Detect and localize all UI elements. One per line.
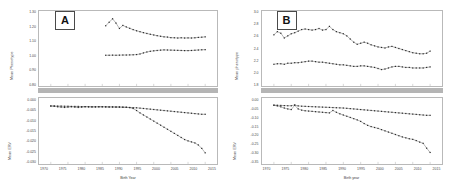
ytick-label: 0.80 <box>29 83 36 87</box>
data-point <box>422 114 423 115</box>
data-point <box>205 152 206 153</box>
xtick-label: 1985 <box>96 167 104 171</box>
data-point <box>412 52 413 53</box>
data-point <box>115 22 116 23</box>
data-point <box>360 43 361 44</box>
data-point <box>301 106 302 107</box>
data-point <box>170 111 171 112</box>
data-point <box>170 37 171 38</box>
series-line <box>273 105 429 152</box>
data-point <box>109 106 110 107</box>
data-point <box>429 66 430 67</box>
data-point <box>405 50 406 51</box>
data-point <box>311 61 312 62</box>
data-point <box>325 29 326 30</box>
data-point <box>184 37 185 38</box>
data-point <box>394 112 395 113</box>
data-point <box>273 64 274 65</box>
data-point <box>321 29 322 30</box>
series-1 <box>50 105 206 115</box>
data-point <box>205 114 206 115</box>
data-point <box>419 142 420 143</box>
data-point <box>122 54 123 55</box>
data-point <box>384 68 385 69</box>
series-2 <box>50 105 206 153</box>
data-point <box>88 106 89 107</box>
data-point <box>356 119 357 120</box>
ytick-label: 1.30 <box>29 10 36 14</box>
data-point <box>276 63 277 64</box>
data-point <box>387 67 388 68</box>
data-point <box>356 44 357 45</box>
data-point <box>297 31 298 32</box>
data-point <box>318 28 319 29</box>
data-point <box>335 31 336 32</box>
data-point <box>339 113 340 114</box>
data-point <box>57 106 58 107</box>
data-point <box>380 111 381 112</box>
ytick-label: -0.25 <box>251 142 259 146</box>
data-point <box>328 112 329 113</box>
data-point <box>177 50 178 51</box>
data-point <box>415 114 416 115</box>
data-point <box>342 107 343 108</box>
data-point <box>287 108 288 109</box>
data-point <box>429 51 430 52</box>
data-point <box>339 64 340 65</box>
data-point <box>328 26 329 27</box>
data-point <box>174 133 175 134</box>
data-point <box>287 35 288 36</box>
data-point <box>112 18 113 19</box>
data-point <box>353 42 354 43</box>
data-point <box>194 113 195 114</box>
data-point <box>153 50 154 51</box>
data-point <box>419 114 420 115</box>
data-point <box>136 54 137 55</box>
ytick-label: -0.20 <box>251 133 259 137</box>
data-point <box>311 29 312 30</box>
xtick-label: 2010 <box>414 167 422 171</box>
data-point <box>339 32 340 33</box>
series-line <box>106 19 205 38</box>
data-point <box>373 67 374 68</box>
panel-a-top-ytick-labels: 1.301.201.101.000.900.80 <box>18 12 36 85</box>
data-point <box>415 67 416 68</box>
data-point <box>325 112 326 113</box>
data-point <box>174 50 175 51</box>
ytick-label: 1.10 <box>29 39 36 43</box>
panel-b-top-ylabel: Mean phenotype <box>235 52 239 80</box>
data-point <box>283 107 284 108</box>
data-point <box>349 108 350 109</box>
data-point <box>314 111 315 112</box>
data-point <box>81 107 82 108</box>
data-point <box>412 67 413 68</box>
data-point <box>391 46 392 47</box>
xtick-label: 2000 <box>152 167 160 171</box>
panel-a-bottom-ylabel: Mean ERV <box>8 142 12 160</box>
data-point <box>198 144 199 145</box>
panel-a-separator-band <box>38 88 218 93</box>
data-point <box>304 28 305 29</box>
data-point <box>363 123 364 124</box>
xtick-label: 1980 <box>77 167 85 171</box>
data-point <box>408 113 409 114</box>
ytick-label: -0.025 <box>26 150 36 154</box>
data-point <box>314 29 315 30</box>
data-point <box>280 106 281 107</box>
panel-b: Mean phenotype Mean ERV 3.02.82.62.42.22… <box>225 0 449 193</box>
data-point <box>426 115 427 116</box>
data-point <box>332 29 333 30</box>
panel-a-bottom-svg <box>39 98 217 164</box>
data-point <box>422 67 423 68</box>
ytick-label: 0.00 <box>252 98 259 102</box>
axis-ticks <box>51 84 205 86</box>
data-point <box>150 34 151 35</box>
ytick-label: -0.015 <box>26 129 36 133</box>
data-point <box>167 129 168 130</box>
data-point <box>318 106 319 107</box>
data-point <box>139 53 140 54</box>
ytick-label: 0.90 <box>29 68 36 72</box>
data-point <box>401 66 402 67</box>
data-point <box>150 109 151 110</box>
data-point <box>119 55 120 56</box>
